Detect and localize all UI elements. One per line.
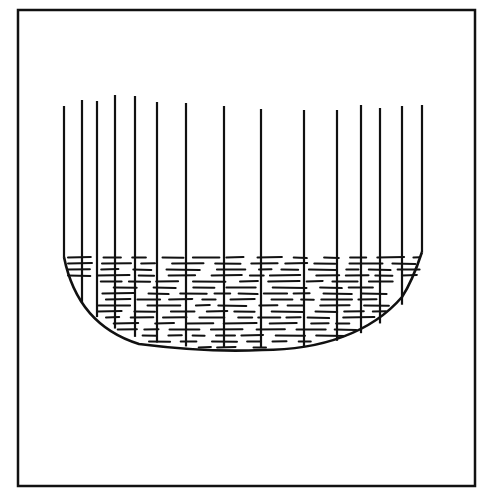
horizontal-dash xyxy=(98,275,130,276)
horizontal-dash xyxy=(309,270,337,271)
horizontal-dash xyxy=(285,263,307,264)
horizontal-dash xyxy=(212,275,242,276)
horizontal-dash xyxy=(324,258,339,259)
horizontal-dash xyxy=(114,323,139,324)
horizontal-dash xyxy=(268,281,299,282)
horizontal-dash xyxy=(324,294,352,295)
horizontal-dash xyxy=(155,323,174,324)
horizontal-dashes xyxy=(68,257,420,348)
horizontal-dash xyxy=(231,299,255,300)
horizontal-dash xyxy=(169,299,192,300)
horizontal-dash xyxy=(343,317,374,318)
horizontal-dash xyxy=(149,294,169,295)
horizontal-dash xyxy=(217,347,236,348)
horizontal-dash xyxy=(97,311,121,312)
frame-border xyxy=(18,10,475,486)
bowl-drawing xyxy=(0,0,491,502)
horizontal-dash xyxy=(241,335,263,336)
horizontal-dash xyxy=(320,288,342,289)
horizontal-dash xyxy=(316,336,345,337)
horizontal-dash xyxy=(307,281,323,282)
horizontal-dash xyxy=(270,323,297,324)
horizontal-dash xyxy=(154,288,176,289)
horizontal-dash xyxy=(102,293,133,294)
horizontal-dash xyxy=(239,294,258,295)
horizontal-dash xyxy=(316,312,338,313)
horizontal-dash xyxy=(308,318,330,319)
horizontal-dash xyxy=(218,306,246,307)
horizontal-dash xyxy=(369,270,391,271)
horizontal-dash xyxy=(68,257,91,258)
vertical-lines xyxy=(64,95,422,348)
horizontal-dash xyxy=(240,281,258,282)
horizontal-dash xyxy=(294,258,307,259)
